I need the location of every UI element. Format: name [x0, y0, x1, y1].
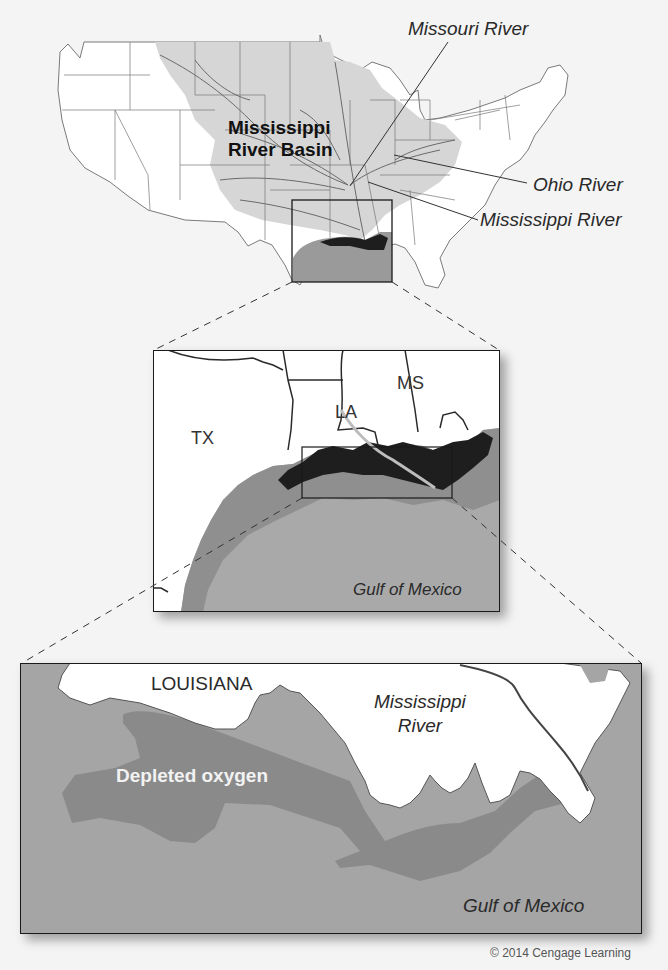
- river-label-detail: Mississippi River: [374, 690, 466, 738]
- river-label-line1: Mississippi: [374, 690, 466, 714]
- detail-inset-map: [20, 663, 642, 934]
- gulf-label-detail: Gulf of Mexico: [463, 896, 584, 915]
- louisiana-label: LOUISIANA: [151, 674, 252, 693]
- depleted-oxygen-label: Depleted oxygen: [116, 766, 268, 785]
- river-label-line2: River: [374, 714, 466, 738]
- copyright-notice: © 2014 Cengage Learning: [490, 947, 631, 959]
